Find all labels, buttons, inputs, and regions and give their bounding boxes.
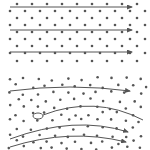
atom-dot	[80, 148, 83, 150]
atom-dot	[9, 104, 12, 107]
atom-dot	[43, 111, 46, 114]
atom-dot	[9, 118, 12, 121]
atom-dot	[101, 111, 104, 114]
atom-dot	[46, 45, 49, 48]
atom-dot	[80, 79, 83, 82]
atom-dot	[38, 134, 41, 137]
atom-dot	[18, 98, 21, 101]
atom-dot	[132, 126, 135, 129]
atom-dot	[54, 10, 57, 13]
atom-dot	[111, 135, 114, 138]
atom-dot	[16, 3, 19, 6]
atom-dot	[119, 101, 122, 104]
atom-dot	[121, 3, 124, 6]
atom-dot	[72, 128, 75, 131]
atom-dot	[61, 45, 64, 48]
atom-dot	[60, 114, 63, 117]
atom-dot	[39, 24, 42, 27]
atom-dot	[31, 31, 34, 34]
atom-dot	[45, 100, 48, 103]
atom-dot	[136, 17, 139, 20]
atom-dot	[145, 86, 148, 89]
atom-dot	[111, 146, 114, 149]
atom-dot	[59, 99, 62, 102]
atom-dot	[53, 107, 56, 110]
atom-dot	[140, 92, 143, 95]
atom-dot	[22, 135, 25, 138]
atom-dot	[74, 141, 77, 144]
atom-dot	[51, 79, 54, 82]
atom-dot	[69, 38, 72, 41]
atom-dot	[9, 10, 12, 13]
atom-dot	[9, 133, 12, 136]
atom-dot	[114, 10, 117, 13]
atom-dot	[37, 93, 40, 96]
atom-dot	[139, 146, 142, 149]
atom-dot	[83, 133, 86, 136]
atom-dot	[96, 118, 99, 121]
atom-dot	[8, 91, 11, 94]
atom-dot	[45, 140, 48, 143]
atom-dot	[73, 98, 76, 101]
atom-dot	[76, 17, 79, 20]
atom-dot	[125, 136, 128, 139]
atom-dot	[101, 140, 104, 143]
diagram-canvas	[0, 0, 150, 150]
imperfect-lattice-paths	[10, 87, 143, 147]
atom-dot	[51, 119, 54, 122]
atom-dot	[117, 84, 120, 87]
atom-dot	[30, 128, 33, 131]
atom-dot	[94, 91, 97, 94]
lattice-diagram	[0, 0, 150, 150]
atom-dot	[129, 38, 132, 41]
atom-dot	[40, 147, 43, 150]
atom-dot	[96, 76, 99, 79]
atom-dot	[46, 17, 49, 20]
atom-dot	[9, 78, 12, 81]
atom-dot	[117, 143, 120, 146]
atom-dot	[9, 38, 12, 41]
atom-dot	[39, 38, 42, 41]
atom-dot	[82, 92, 85, 95]
atom-dot	[139, 78, 142, 81]
atom-dot	[76, 3, 79, 6]
atom-dot	[110, 77, 113, 80]
perfect-lattice-paths	[10, 7, 132, 52]
atom-dot	[16, 17, 19, 20]
scattered-path	[43, 106, 143, 120]
atom-dot	[106, 60, 109, 63]
atom-dot	[129, 24, 132, 27]
atom-dot	[54, 24, 57, 27]
atom-dot	[121, 31, 124, 34]
atom-dot	[106, 45, 109, 48]
atom-dot	[46, 31, 49, 34]
atom-dot	[14, 114, 17, 117]
atom-dot	[91, 17, 94, 20]
atom-dot	[110, 118, 113, 121]
atom-dot	[30, 99, 33, 102]
atom-dot	[80, 118, 83, 121]
atom-dot	[54, 134, 57, 137]
atom-dot	[99, 38, 102, 41]
atom-dot	[74, 114, 77, 117]
atom-dot	[68, 118, 71, 121]
atom-dot	[106, 17, 109, 20]
atom-dot	[67, 91, 70, 94]
atom-dot	[69, 10, 72, 13]
atom-dot	[24, 38, 27, 41]
atom-dot	[91, 60, 94, 63]
atom-dot	[121, 17, 124, 20]
atom-dot	[121, 60, 124, 63]
atom-dot	[67, 77, 70, 80]
atom-dot	[132, 139, 135, 142]
atom-dot	[16, 31, 19, 34]
atom-dot	[50, 146, 53, 149]
electron-marker-icon	[33, 113, 43, 119]
atom-dot	[46, 60, 49, 63]
atom-dot	[9, 24, 12, 27]
atom-dot	[129, 10, 132, 13]
atom-dot	[121, 45, 124, 48]
atom-dot	[24, 10, 27, 13]
atom-dot	[114, 24, 117, 27]
atom-dot	[22, 120, 25, 123]
